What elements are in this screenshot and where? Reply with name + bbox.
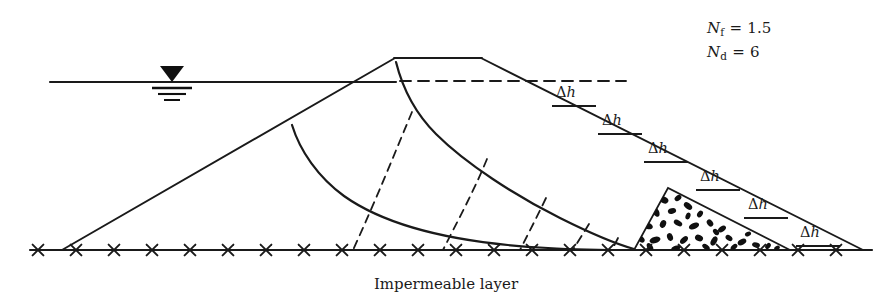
head-loss-h-symbol: h [658, 140, 667, 156]
downstream-slope-line [481, 58, 863, 250]
parameter-nd-equals: = [732, 43, 745, 61]
parameter-nf-symbol: N [707, 19, 720, 37]
head-loss-delta-symbol: Δ [800, 224, 810, 240]
head-loss-h-symbol: h [758, 196, 767, 212]
phreatic-surface-flow-line [396, 62, 634, 249]
head-loss-h-symbol: h [612, 112, 621, 128]
figure-canvas: Nf = 1.5 Nd = 6 ΔhΔhΔhΔhΔhΔh Impermeable… [0, 0, 892, 307]
equipotential-line-3 [520, 198, 546, 250]
parameter-nf-subscript: f [720, 26, 724, 38]
head-loss-label-6: Δh [800, 224, 820, 240]
head-loss-label-4: Δh [700, 168, 720, 184]
head-loss-label-1: Δh [556, 84, 576, 100]
parameter-nf-value: 1.5 [747, 19, 771, 37]
head-loss-h-symbol: h [710, 168, 719, 184]
parameter-nd-subscript: d [720, 50, 727, 62]
impermeable-layer-caption: Impermeable layer [0, 275, 892, 293]
head-loss-h-symbol: h [810, 224, 819, 240]
upstream-slope-line [62, 58, 395, 250]
head-loss-delta-symbol: Δ [700, 168, 710, 184]
head-loss-delta-symbol: Δ [556, 84, 566, 100]
parameter-nd-value: 6 [750, 43, 760, 61]
parameter-nf-equals: = [729, 19, 742, 37]
equipotential-line-2 [443, 159, 487, 250]
head-loss-label-3: Δh [648, 140, 668, 156]
head-loss-label-2: Δh [602, 112, 622, 128]
head-loss-delta-symbol: Δ [602, 112, 612, 128]
head-loss-delta-symbol: Δ [748, 196, 758, 212]
parameter-nf: Nf = 1.5 [707, 19, 772, 38]
head-loss-h-symbol: h [566, 84, 575, 100]
parameter-nd-symbol: N [707, 43, 720, 61]
parameter-nd: Nd = 6 [707, 43, 760, 62]
head-loss-delta-symbol: Δ [648, 140, 658, 156]
lower-flow-line [292, 125, 634, 250]
head-loss-label-5: Δh [748, 196, 768, 212]
equipotential-line-1 [353, 112, 412, 250]
